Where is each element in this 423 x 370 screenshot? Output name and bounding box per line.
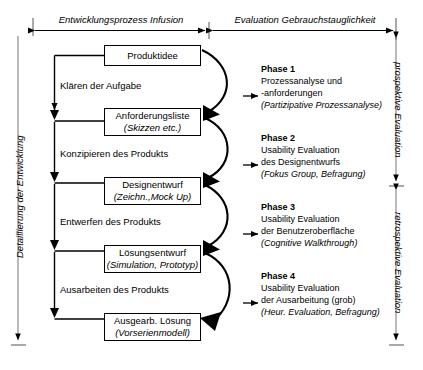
phase-4-method: (Heur. Evaluation, Befragung) [261, 307, 380, 319]
activity-label-klaeren-der-aufgabe: Klären der Aufgabe [60, 80, 141, 91]
phase-1-line2: -anforderungen [261, 88, 382, 100]
activity-label-entwerfen-des-produkts: Entwerfen des Produkts [60, 216, 161, 227]
side-label-retrospektive-evaluation: retrospektive Evaluation [393, 212, 404, 313]
activity-label-ausarbeiten-des-produkts: Ausarbeiten des Produkts [60, 284, 169, 295]
process-box-produktidee[interactable]: Produktidee [104, 45, 201, 66]
phase-3-line2: der Benutzeroberfläche [261, 226, 357, 238]
phase-2-line1: Usability Evaluation [261, 145, 366, 157]
process-box-ausgearb-loesung-main: Ausgearb. Lösung [114, 315, 191, 327]
process-box-designentwurf-main: Designentwurf [122, 179, 183, 191]
process-box-designentwurf-sub: (Zeichn.,Mock Up) [114, 191, 192, 203]
phase-4-line1: Usability Evaluation [261, 283, 380, 295]
phase-4-line2: der Ausarbeitung (grob) [261, 295, 380, 307]
process-flow-spine [55, 56, 105, 309]
phase-4-title: Phase 4 [261, 271, 380, 283]
phase-pointer-arrows [243, 96, 258, 303]
process-box-loesungsentwurf[interactable]: Lösungsentwurf (Simulation, Prototyp) [104, 245, 201, 273]
process-box-anforderungsliste-main: Anforderungsliste [116, 110, 190, 122]
side-label-prospektive-evaluation: prospektive Evaluation [393, 62, 404, 158]
side-label-detaillierung: Detaillierung der Entwicklung [14, 135, 25, 258]
process-box-produktidee-main: Produktidee [127, 50, 178, 62]
process-box-ausgearb-loesung[interactable]: Ausgearb. Lösung (Vorserienmodell) [104, 313, 201, 341]
span-label-usability-evaluation: Evaluation Gebrauchstauglichkeit [213, 14, 397, 25]
process-box-ausgearb-loesung-sub: (Vorserienmodell) [115, 327, 190, 339]
phase-3-method: (Cognitive Walkthrough) [261, 238, 357, 250]
phase-2-method: (Fokus Group, Befragung) [261, 169, 366, 181]
phase-block-2[interactable]: Phase 2 Usability Evaluation des Designe… [261, 133, 366, 181]
activity-label-konzipieren-des-produkts: Konzipieren des Produkts [60, 148, 168, 159]
phase-1-method: (Partizipative Prozessanalyse) [261, 100, 382, 112]
process-box-anforderungsliste-sub: (Skizzen etc.) [124, 122, 182, 134]
process-box-designentwurf[interactable]: Designentwurf (Zeichn.,Mock Up) [104, 177, 201, 205]
process-box-anforderungsliste[interactable]: Anforderungsliste (Skizzen etc.) [104, 108, 201, 136]
phase-1-line1: Prozessanalyse und [261, 76, 382, 88]
phase-2-title: Phase 2 [261, 133, 366, 145]
serpentine-arrowheads [200, 105, 221, 331]
phase-3-line1: Usability Evaluation [261, 214, 357, 226]
span-label-development-process: Entwicklungsprozess Infusion [33, 14, 209, 25]
phase-block-3[interactable]: Phase 3 Usability Evaluation der Benutze… [261, 202, 357, 250]
phase-3-title: Phase 3 [261, 202, 357, 214]
phase-block-4[interactable]: Phase 4 Usability Evaluation der Ausarbe… [261, 271, 380, 319]
phase-1-title: Phase 1 [261, 64, 382, 76]
usability-process-diagram: Entwicklungsprozess Infusion Evaluation … [0, 0, 423, 370]
process-box-loesungsentwurf-sub: (Simulation, Prototyp) [107, 259, 198, 271]
process-box-loesungsentwurf-main: Lösungsentwurf [119, 247, 186, 259]
phase-block-1[interactable]: Phase 1 Prozessanalyse und -anforderunge… [261, 64, 382, 112]
phase-2-line2: des Designentwurfs [261, 157, 366, 169]
